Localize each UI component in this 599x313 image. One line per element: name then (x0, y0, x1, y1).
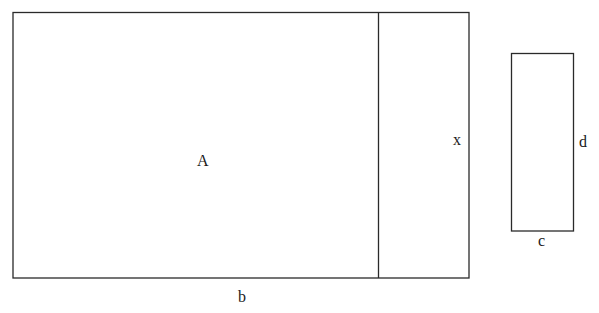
side-label-x: x (453, 131, 461, 148)
area-label-A: A (197, 152, 209, 169)
small-rectangle (512, 54, 574, 232)
width-label-c: c (538, 232, 545, 249)
diagram-canvas: A b x c d (0, 0, 599, 313)
large-rectangle (13, 13, 469, 279)
base-label-b: b (238, 288, 246, 305)
height-label-d: d (579, 133, 587, 150)
